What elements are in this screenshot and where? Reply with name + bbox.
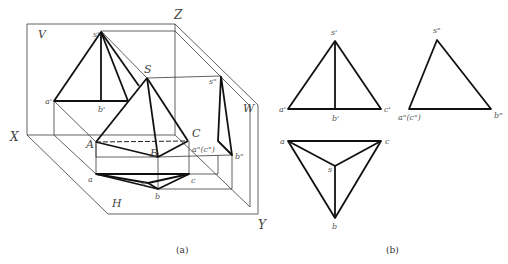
tv-a-label: a bbox=[280, 137, 285, 146]
axis-y-label: Y bbox=[258, 218, 267, 232]
pyramid-3d bbox=[96, 78, 188, 157]
side-b-label: b" bbox=[235, 152, 244, 161]
axis-z-label: Z bbox=[173, 8, 183, 22]
point-B-label: B bbox=[149, 147, 158, 160]
axis-x-label: X bbox=[9, 130, 19, 144]
front-a-label: a' bbox=[45, 97, 52, 106]
side-projection-a bbox=[218, 76, 232, 155]
figure-b: s' a' b' c' s" a"(c") b" a c s b (b) bbox=[279, 26, 503, 255]
front-s-label: s' bbox=[93, 30, 99, 39]
fv-a-label: a' bbox=[279, 105, 286, 114]
top-view: a c s b bbox=[280, 137, 390, 231]
front-projection-a bbox=[54, 32, 139, 101]
tv-b-label: b bbox=[332, 222, 337, 231]
figure-a: Z X Y V H W S A B C s' a' b' s" a"(c") b… bbox=[9, 8, 267, 255]
caption-b: (b) bbox=[386, 245, 399, 255]
top-s-label: s bbox=[141, 179, 145, 188]
sv-ac-label: a"(c") bbox=[398, 113, 421, 122]
side-ac-label: a"(c") bbox=[192, 145, 215, 154]
w-plane bbox=[101, 24, 258, 214]
fv-b-label: b' bbox=[332, 114, 339, 123]
point-A-label: A bbox=[85, 138, 94, 151]
top-c-label: c bbox=[191, 176, 196, 185]
sv-b-label: b" bbox=[494, 111, 503, 120]
side-s-label: s" bbox=[209, 77, 217, 86]
front-view: s' a' b' c' bbox=[279, 28, 391, 123]
top-b-label: b bbox=[155, 192, 160, 201]
v-plane-label: V bbox=[38, 28, 47, 41]
sv-s-label: s" bbox=[433, 26, 441, 35]
projection-diagram: Z X Y V H W S A B C s' a' b' s" a"(c") b… bbox=[0, 0, 508, 264]
h-plane-label: H bbox=[111, 197, 122, 210]
top-a-label: a bbox=[88, 175, 93, 184]
side-view: s" a"(c") b" bbox=[398, 26, 503, 122]
front-b-label: b' bbox=[98, 105, 105, 114]
fv-c-label: c' bbox=[384, 105, 391, 114]
tv-c-label: c bbox=[385, 137, 390, 146]
projection-lines bbox=[54, 31, 232, 189]
point-C-label: C bbox=[192, 127, 201, 140]
w-plane-label: W bbox=[243, 102, 256, 115]
point-S-label: S bbox=[144, 63, 152, 76]
caption-a: (a) bbox=[176, 245, 188, 255]
tv-s-label: s bbox=[328, 165, 332, 174]
fv-s-label: s' bbox=[331, 28, 337, 37]
